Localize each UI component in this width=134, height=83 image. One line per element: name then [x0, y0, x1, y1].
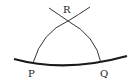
base-arc [14, 56, 127, 65]
label-r: R [63, 5, 71, 15]
arc-from-p [33, 7, 90, 63]
label-q: Q [100, 69, 108, 79]
label-p: P [28, 69, 35, 79]
